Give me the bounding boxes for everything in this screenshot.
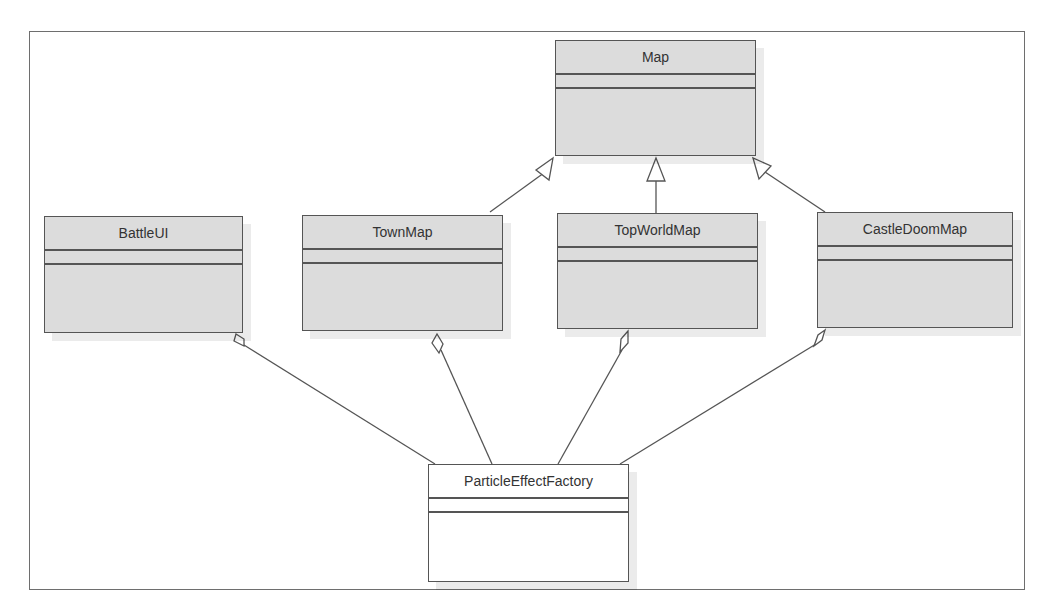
class-attributes (45, 251, 242, 265)
aggregation-topworldmap-factory (558, 350, 622, 464)
class-topworldmap[interactable]: TopWorldMap (557, 213, 758, 329)
class-name: Map (556, 41, 755, 75)
class-name: CastleDoomMap (818, 213, 1012, 247)
class-attributes (429, 499, 628, 513)
class-townmap[interactable]: TownMap (302, 215, 503, 331)
aggregation-battleui-factory (244, 345, 435, 464)
aggregation-castledoommap-factory (620, 344, 816, 464)
inheritance-arrowhead-icon (753, 158, 771, 179)
class-attributes (556, 75, 755, 89)
generalization-townmap-map (490, 170, 548, 212)
class-particleeffectfactory[interactable]: ParticleEffectFactory (428, 464, 629, 582)
aggregation-diamond-icon (814, 330, 825, 346)
inheritance-arrowhead-icon (647, 158, 665, 181)
generalization-castledoommap-map (765, 172, 825, 212)
aggregation-diamond-icon (234, 334, 244, 346)
class-map[interactable]: Map (555, 40, 756, 156)
class-attributes (558, 248, 757, 262)
class-name: TopWorldMap (558, 214, 757, 248)
class-battleui[interactable]: BattleUI (44, 216, 243, 333)
aggregation-diamond-icon (620, 331, 628, 352)
aggregation-townmap-factory (441, 350, 492, 464)
class-castledoommap[interactable]: CastleDoomMap (817, 212, 1013, 328)
class-name: TownMap (303, 216, 502, 250)
class-name: ParticleEffectFactory (429, 465, 628, 499)
class-name: BattleUI (45, 217, 242, 251)
class-attributes (818, 247, 1012, 261)
class-attributes (303, 250, 502, 264)
